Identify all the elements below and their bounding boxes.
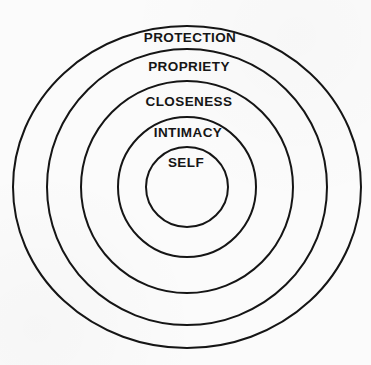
concentric-circles-diagram: PROTECTION PROPRIETY CLOSENESS INTIMACY … — [0, 0, 371, 365]
ring-propriety — [47, 49, 327, 325]
diagram-canvas: PROTECTION PROPRIETY CLOSENESS INTIMACY … — [0, 0, 371, 365]
ring-closeness — [81, 81, 293, 293]
ring-label-protection: PROTECTION — [144, 30, 237, 45]
ring-label-self: SELF — [168, 155, 204, 170]
ring-label-intimacy: INTIMACY — [154, 125, 222, 140]
ring-protection — [13, 26, 361, 348]
ring-label-closeness: CLOSENESS — [146, 94, 233, 109]
ring-label-propriety: PROPRIETY — [148, 59, 230, 74]
